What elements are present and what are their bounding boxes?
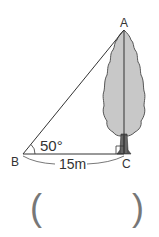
diagram-canvas: A B C 50° 15m ( ) bbox=[0, 0, 159, 237]
angle-label: 50° bbox=[40, 137, 63, 154]
answer-paren-close: ) bbox=[132, 187, 144, 228]
distance-label: 15m bbox=[59, 156, 86, 172]
label-A: A bbox=[120, 16, 128, 30]
label-C: C bbox=[122, 157, 131, 171]
answer-paren-open: ( bbox=[30, 187, 42, 228]
label-B: B bbox=[11, 155, 19, 169]
angle-arc-B bbox=[31, 145, 35, 155]
